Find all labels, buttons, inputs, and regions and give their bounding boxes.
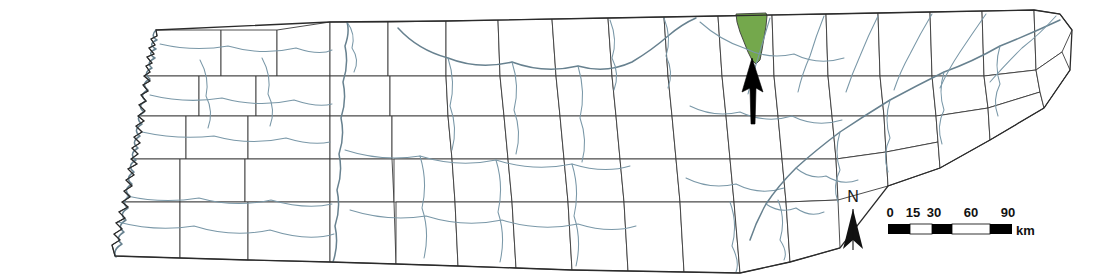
county bbox=[832, 116, 886, 159]
county bbox=[392, 116, 452, 159]
county bbox=[180, 159, 245, 202]
county bbox=[452, 159, 512, 202]
county bbox=[504, 116, 564, 159]
county bbox=[676, 159, 734, 202]
scale-tick-15: 15 bbox=[906, 205, 920, 220]
scale-tick-0: 0 bbox=[886, 205, 893, 220]
scale-tick-90: 90 bbox=[1001, 205, 1015, 220]
scale-tick-60: 60 bbox=[964, 205, 978, 220]
county bbox=[455, 202, 516, 268]
county bbox=[616, 116, 676, 159]
county bbox=[248, 116, 330, 159]
county bbox=[826, 13, 880, 76]
county bbox=[774, 76, 832, 116]
county bbox=[730, 159, 786, 202]
county bbox=[664, 16, 722, 76]
county bbox=[390, 76, 448, 116]
county bbox=[672, 116, 730, 159]
county bbox=[880, 76, 936, 116]
county bbox=[330, 76, 390, 116]
scale-segment-2 bbox=[910, 224, 932, 234]
county bbox=[828, 76, 884, 116]
county bbox=[782, 159, 838, 202]
county bbox=[680, 202, 740, 273]
county bbox=[330, 22, 388, 76]
county bbox=[446, 20, 500, 76]
county bbox=[330, 202, 396, 264]
north-arrow-label: N bbox=[847, 188, 859, 205]
county bbox=[277, 22, 330, 76]
scale-tick-30: 30 bbox=[927, 205, 941, 220]
county bbox=[624, 202, 684, 272]
county bbox=[256, 76, 330, 116]
tennessee-county-map: N 0 15 30 60 90 km bbox=[0, 0, 1098, 279]
county bbox=[878, 12, 932, 76]
county bbox=[668, 76, 726, 116]
county bbox=[512, 202, 572, 270]
county bbox=[199, 76, 256, 116]
county bbox=[448, 116, 508, 159]
county bbox=[498, 19, 556, 76]
county bbox=[245, 159, 330, 202]
county bbox=[564, 159, 624, 202]
county bbox=[221, 30, 277, 76]
scale-unit-label: km bbox=[1016, 223, 1035, 238]
county bbox=[500, 76, 560, 116]
county bbox=[612, 76, 672, 116]
county bbox=[556, 76, 616, 116]
county bbox=[772, 14, 828, 76]
scale-segment-3 bbox=[932, 224, 952, 234]
scale-segment-4 bbox=[952, 224, 990, 234]
county bbox=[388, 21, 446, 76]
scale-segment-5 bbox=[990, 224, 1012, 234]
county bbox=[560, 116, 620, 159]
county bbox=[446, 76, 504, 116]
scale-segment-1 bbox=[888, 224, 910, 234]
county bbox=[620, 159, 680, 202]
